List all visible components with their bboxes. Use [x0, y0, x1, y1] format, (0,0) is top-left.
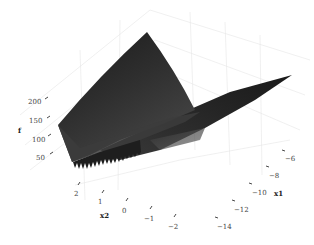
surface-plot[interactable]: 200 150 100 50 f 2 1 0 −1 −2 x2 −6 −8 −1…: [0, 0, 314, 245]
x1-axis: −6 −8 −10 −12 −14 x1: [215, 150, 296, 231]
z-tick-200: 200: [28, 98, 41, 106]
x2-tick-1: 1: [98, 198, 102, 206]
surface: [58, 32, 292, 169]
x1-tick-neg8: −8: [269, 172, 279, 180]
x2-tick-2: 2: [74, 190, 78, 198]
x2-tick-neg1: −1: [144, 215, 154, 223]
x2-tick-0: 0: [122, 207, 126, 215]
z-axis: 200 150 100 50 f: [18, 97, 53, 162]
x1-axis-title: x1: [274, 189, 283, 198]
x2-axis-title: x2: [100, 211, 109, 220]
z-tick-100: 100: [32, 136, 45, 144]
x1-tick-neg12: −12: [234, 206, 249, 214]
x1-tick-neg10: −10: [252, 189, 267, 197]
x2-axis: 2 1 0 −1 −2 x2: [74, 182, 178, 231]
x2-tick-neg2: −2: [168, 223, 178, 231]
z-tick-50: 50: [36, 154, 45, 162]
x1-tick-neg14: −14: [217, 223, 232, 231]
x1-tick-neg6: −6: [285, 155, 296, 163]
z-tick-150: 150: [29, 117, 42, 125]
z-axis-title: f: [18, 126, 22, 135]
